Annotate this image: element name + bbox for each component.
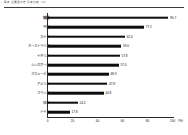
bar [48,92,104,95]
value-axis-tick-mark [48,117,49,118]
bar-chart-figure: 図表 主要国の普及率比較（％） 韓国96.7中国77.2カナダ62.0オーストラ… [0,0,188,135]
category-label: オーストラリア [28,44,49,48]
bar-rows: 韓国96.7中国77.2カナダ62.0オーストラリア59.0イギリス57.8シン… [0,13,188,117]
value-axis-tick-mark [98,117,99,118]
bar [48,73,109,76]
bar [48,102,78,105]
category-label: スウェーデン [31,72,49,76]
bar-row: カナダ62.0 [0,32,188,41]
bar-value-label: 59.0 [123,44,129,48]
bar-value-label: 48.9 [110,72,116,76]
bar-value-label: 17.8 [71,110,77,114]
bar [48,64,119,67]
header-divider [4,7,184,8]
bar-value-label: 62.0 [127,35,133,39]
value-axis-ticks: （％） 020406080100 [0,117,188,127]
bar-value-label: 47.8 [109,82,115,86]
value-axis-tick-label: 60 [121,119,124,123]
value-axis-tick-mark [148,117,149,118]
figure-header: 図表 主要国の普及率比較（％） [4,0,184,9]
value-axis-tick-mark [73,117,74,118]
plot-area: 韓国96.7中国77.2カナダ62.0オーストラリア59.0イギリス57.8シン… [0,9,188,135]
value-axis-tick-label: 80 [146,119,149,123]
category-label: シンガポール [31,63,49,67]
bar-row: イギリス57.8 [0,51,188,60]
value-axis-tick-label: 100 [170,119,175,123]
bar-row: スウェーデン48.9 [0,70,188,79]
figure-title: 図表 主要国の普及率比較（％） [4,1,48,5]
bar-value-label: 57.8 [121,54,127,58]
bar [48,16,169,19]
bar-row: 韓国96.7 [0,13,188,22]
bar-row: フランス44.8 [0,89,188,98]
value-axis-tick-label: 0 [47,119,49,123]
bar [48,54,120,57]
value-axis-unit: （％） [176,119,185,123]
bar-row: オーストラリア59.0 [0,41,188,50]
bar-value-label: 77.2 [146,25,152,29]
value-axis-tick-label: 40 [96,119,99,123]
value-axis-tick-mark [173,117,174,118]
bar [48,111,70,114]
bar-value-label: 24.2 [79,101,85,105]
value-axis-tick-mark [123,117,124,118]
bar-row: 中国77.2 [0,22,188,31]
bar [48,83,108,86]
bar-row: 日本24.2 [0,98,188,107]
bar-row: シンガポール57.0 [0,60,188,69]
value-axis-tick-label: 20 [71,119,74,123]
bar-value-label: 44.8 [105,91,111,95]
bar-value-label: 57.0 [120,63,126,67]
bar [48,35,126,38]
bar-row: アメリカ47.8 [0,79,188,88]
bar [48,45,122,48]
bar-value-label: 96.7 [170,16,176,20]
bar [48,26,145,29]
